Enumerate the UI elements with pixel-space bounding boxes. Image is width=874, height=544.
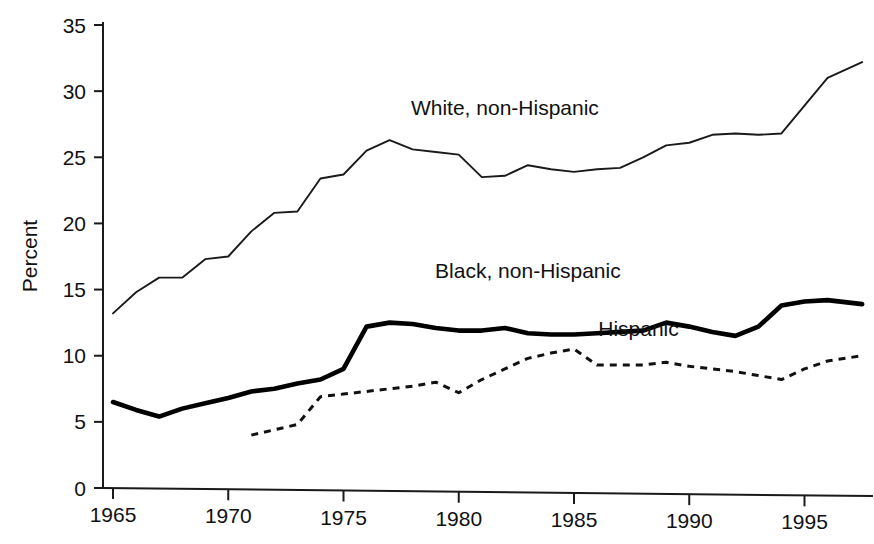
y-tick-label: 5 (74, 410, 86, 433)
x-tick-label: 1980 (435, 507, 482, 530)
series-label: Hispanic (598, 317, 679, 340)
x-tick-label: 1995 (781, 510, 828, 533)
x-tick-label: 1985 (551, 508, 598, 531)
x-tick-label: 1965 (90, 503, 137, 526)
y-tick-label: 20 (63, 212, 86, 235)
chart-figure: 05101520253035 1965197019751980198519901… (0, 0, 874, 544)
y-tick-label: 15 (63, 278, 86, 301)
series-inline-labels: White, non-HispanicBlack, non-HispanicHi… (411, 96, 679, 340)
y-axis-tick-labels: 05101520253035 (63, 14, 86, 500)
x-axis-tick-labels: 1965197019751980198519901995 (90, 503, 828, 533)
series-line (113, 300, 862, 416)
series-line (251, 349, 862, 435)
series-label: Black, non-Hispanic (435, 259, 621, 282)
y-tick-label: 35 (63, 14, 86, 37)
x-tick-label: 1990 (666, 509, 713, 532)
x-tick-label: 1975 (320, 506, 367, 529)
x-tick-label: 1970 (205, 504, 252, 527)
y-tick-label: 0 (74, 477, 86, 500)
y-tick-label: 10 (63, 344, 86, 367)
x-axis-line (103, 488, 872, 496)
y-axis-title: Percent (18, 220, 41, 293)
axis-titles: Percent (18, 220, 41, 293)
y-tick-label: 30 (63, 80, 86, 103)
y-tick-label: 25 (63, 146, 86, 169)
chart-canvas: 05101520253035 1965197019751980198519901… (0, 0, 874, 544)
series-label: White, non-Hispanic (411, 96, 599, 119)
